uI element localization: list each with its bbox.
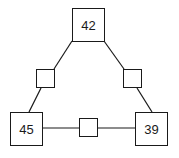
corner-value-top: 42: [81, 18, 95, 33]
corner-box-bottom-right: 39: [135, 112, 168, 146]
corner-box-top: 42: [72, 8, 105, 42]
corner-value-bottom-right: 39: [144, 122, 158, 137]
edge-top-left-lower: [29, 88, 41, 112]
edge-box-left[interactable]: [36, 69, 55, 88]
edge-box-bottom[interactable]: [79, 118, 98, 137]
edge-top-left-upper: [54, 41, 72, 69]
edge-top-right-lower: [137, 88, 152, 112]
corner-value-bottom-left: 45: [19, 122, 33, 137]
edge-box-right[interactable]: [123, 69, 142, 88]
edge-top-right-upper: [104, 41, 124, 69]
corner-box-bottom-left: 45: [10, 112, 43, 146]
